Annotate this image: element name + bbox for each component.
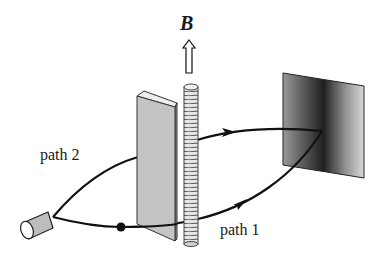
slab <box>137 91 177 241</box>
field-arrow-icon <box>183 40 195 73</box>
path-1-arrow-icon <box>233 199 247 210</box>
source-cylinder <box>18 212 53 241</box>
field-label: B <box>180 12 193 35</box>
path-1-label: path 1 <box>220 221 260 239</box>
solenoid <box>184 84 198 247</box>
diagram-canvas: B path 2 path 1 <box>0 0 391 264</box>
path-2-label: path 2 <box>40 146 80 164</box>
path-1-dot <box>117 223 126 232</box>
diagram-svg <box>0 0 391 264</box>
screen <box>283 73 364 178</box>
